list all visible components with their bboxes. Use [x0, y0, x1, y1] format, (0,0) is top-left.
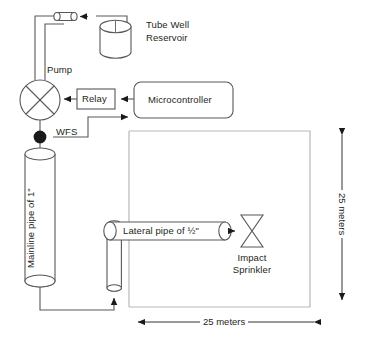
- tube-well-reservoir-shape: [100, 20, 131, 58]
- mainline-pipe-label: Mainline pipe of 1": [25, 188, 37, 268]
- field-boundary: [129, 131, 310, 307]
- water-flow-sensor-symbol: [34, 131, 47, 144]
- delivery-pipe-horizontal: [54, 13, 77, 21]
- mainline-to-riser-piping: [40, 287, 114, 310]
- pump-symbol: [20, 80, 60, 120]
- impact-sprinkler-label-line1: Impact: [222, 252, 282, 264]
- tube-well-reservoir-label-line2: Reservoir: [146, 32, 188, 44]
- horizontal-dimension-label: 25 meters: [200, 316, 248, 327]
- vertical-dimension-label: 25 meters: [337, 190, 348, 238]
- diagram-canvas: [0, 0, 368, 339]
- tube-well-reservoir-label-line1: Tube Well: [146, 19, 189, 31]
- water-flow-sensor-label: WFS: [56, 126, 77, 138]
- pump-label: Pump: [47, 64, 72, 76]
- impact-sprinkler-symbol: [241, 215, 263, 247]
- impact-sprinkler-label-line2: Sprinkler: [222, 264, 282, 276]
- lateral-pipe-label: Lateral pipe of ½": [123, 225, 199, 237]
- irrigation-diagram: Tube Well Reservoir Pump Relay Microcont…: [0, 0, 368, 339]
- relay-label: Relay: [82, 93, 107, 105]
- microcontroller-label: Microcontroller: [148, 94, 212, 106]
